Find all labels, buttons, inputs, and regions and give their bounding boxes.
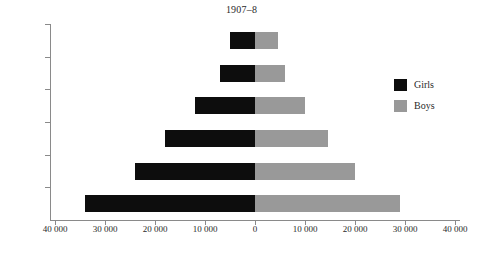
bar-girls-6th: [230, 32, 255, 49]
chart-title: 1907–8: [0, 4, 483, 15]
bar-row: [50, 155, 460, 188]
legend-swatch-girls: [394, 79, 407, 91]
x-tick-label-8: 40 000: [425, 224, 483, 234]
y-axis-tick: [45, 57, 50, 58]
legend-label-boys: Boys: [414, 100, 435, 111]
plot-area: 1th2th3th4th5th6th40 00030 00020 00010 0…: [50, 24, 460, 220]
bar-row: [50, 24, 460, 57]
bar-boys-2th: [255, 163, 355, 180]
chart-legend: GirlsBoys: [394, 76, 435, 118]
y-axis-tick: [45, 24, 50, 25]
bar-girls-2th: [135, 163, 255, 180]
chart-figure: 1907–8 Years 1th2th3th4th5th6th40 00030 …: [0, 0, 483, 257]
legend-item-girls: Girls: [394, 76, 435, 93]
legend-label-girls: Girls: [414, 79, 434, 90]
bar-boys-6th: [255, 32, 278, 49]
bar-row: [50, 122, 460, 155]
bar-girls-5th: [220, 65, 255, 82]
legend-swatch-boys: [394, 100, 407, 112]
bar-girls-4th: [195, 97, 255, 114]
legend-item-boys: Boys: [394, 97, 435, 114]
y-axis-tick: [45, 89, 50, 90]
bar-girls-3th: [165, 130, 255, 147]
bar-row: [50, 187, 460, 220]
bar-boys-1th: [255, 195, 400, 212]
y-axis-tick: [45, 122, 50, 123]
y-axis-tick: [45, 187, 50, 188]
bar-boys-5th: [255, 65, 285, 82]
bar-boys-3th: [255, 130, 328, 147]
bar-girls-1th: [85, 195, 255, 212]
y-axis-tick: [45, 155, 50, 156]
bar-boys-4th: [255, 97, 305, 114]
